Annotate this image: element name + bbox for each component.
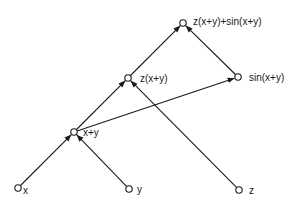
node-label-xpy: x+y (83, 128, 99, 138)
nodes-layer (15, 20, 242, 193)
node-sinxy (235, 74, 241, 80)
edge-sinxy-to-out (186, 26, 236, 75)
edges-layer (20, 26, 236, 188)
edge-xpy-to-zxy (76, 81, 125, 130)
node-label-out: z(x+y)+sin(x+y) (193, 17, 262, 27)
edge-z-to-zxy (131, 81, 237, 188)
node-out (180, 20, 186, 26)
edge-x-to-xpy (20, 135, 71, 186)
node-x (15, 185, 21, 191)
node-label-y: y (137, 185, 142, 195)
node-xpy (71, 129, 77, 135)
node-label-zxy: z(x+y) (140, 74, 168, 84)
node-label-sinxy: sin(x+y) (249, 73, 284, 83)
node-z (236, 187, 242, 193)
node-label-z: z (249, 186, 254, 196)
node-label-x: x (23, 186, 28, 196)
node-zxy (125, 75, 131, 81)
edge-y-to-xpy (77, 135, 127, 187)
edge-zxy-to-out (130, 26, 180, 76)
computation-graph (0, 0, 304, 210)
node-y (126, 186, 132, 192)
